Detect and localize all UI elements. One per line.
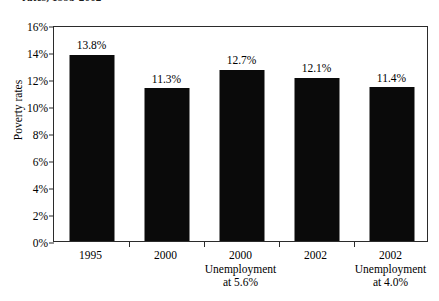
bar-value-label: 12.7%	[227, 55, 257, 67]
chart-title-cropped: rates, 1995-2002	[22, 0, 232, 3]
bar-value-label: 11.4%	[377, 73, 406, 85]
x-category-line: 2002	[353, 249, 428, 263]
bar[interactable]	[144, 88, 189, 241]
bar-slot: 12.1%	[279, 27, 354, 241]
bar[interactable]	[219, 70, 264, 241]
x-category-line: 2000	[203, 249, 278, 263]
bar-slot: 11.4%	[354, 27, 429, 241]
bar-value-label: 12.1%	[302, 63, 332, 75]
x-tick-mark	[354, 241, 355, 247]
x-category-label: 2000	[128, 249, 203, 263]
x-category-label: 2000Unemploymentat 5.6%	[203, 249, 278, 290]
bar[interactable]	[369, 87, 414, 241]
bar-slot: 13.8%	[54, 27, 129, 241]
bar[interactable]	[69, 55, 114, 241]
x-category-label: 1995	[53, 249, 128, 263]
x-tick-mark	[129, 241, 130, 247]
x-category-line: at 5.6%	[203, 276, 278, 290]
x-tick-mark	[204, 241, 205, 247]
x-category-label: 2002Unemploymentat 4.0%	[353, 249, 428, 290]
bar-value-label: 11.3%	[152, 74, 181, 86]
plot-area: 0%2%4%6%8%10%12%14%16% 13.8%11.3%12.7%12…	[53, 26, 428, 242]
bar-slot: 11.3%	[129, 27, 204, 241]
x-category-line: 2000	[128, 249, 203, 263]
x-category-line: Unemployment	[353, 263, 428, 277]
bar-value-label: 13.8%	[77, 40, 107, 52]
y-tick-mark	[49, 243, 54, 244]
x-category-label: 2002	[278, 249, 353, 263]
x-category-line: at 4.0%	[353, 276, 428, 290]
x-category-line: 1995	[53, 249, 128, 263]
bar[interactable]	[294, 78, 339, 241]
x-category-line: 2002	[278, 249, 353, 263]
x-tick-mark	[279, 241, 280, 247]
y-axis-title: Poverty rates	[12, 45, 24, 175]
bar-chart-figure: rates, 1995-2002 Poverty rates 0%2%4%6%8…	[0, 0, 439, 301]
x-category-line: Unemployment	[203, 263, 278, 277]
bar-slot: 12.7%	[204, 27, 279, 241]
